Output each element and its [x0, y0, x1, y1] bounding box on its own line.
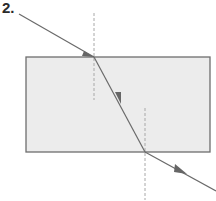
- incident-ray: [19, 14, 94, 57]
- refraction-diagram: [0, 0, 216, 201]
- emergent-ray-arrow-icon: [174, 164, 187, 174]
- incident-ray-arrow-icon: [82, 51, 94, 57]
- glass-block: [26, 57, 210, 152]
